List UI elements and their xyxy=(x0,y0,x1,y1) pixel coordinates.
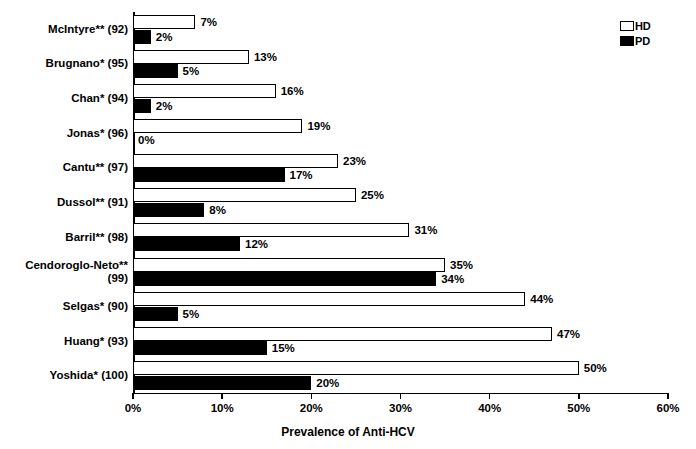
bar-value-label: 23% xyxy=(343,154,366,168)
bar-value-label: 12% xyxy=(245,237,268,251)
x-axis-tick xyxy=(400,393,401,399)
bar-pd xyxy=(133,376,311,390)
bar-hd xyxy=(133,292,525,306)
bar-pd xyxy=(133,237,240,251)
bar-value-label: 2% xyxy=(156,99,173,113)
bar-value-label: 0% xyxy=(138,133,155,147)
bar-hd xyxy=(133,327,552,341)
bar-pd xyxy=(133,307,178,321)
bar-hd xyxy=(133,188,356,202)
category-label: Chan* (94) xyxy=(2,92,128,105)
category-label: Brugnano* (95) xyxy=(2,57,128,70)
x-axis-tick-label: 40% xyxy=(478,402,501,414)
bar-value-label: 47% xyxy=(557,327,580,341)
x-axis-tick-label: 50% xyxy=(567,402,590,414)
category-label: Barril** (98) xyxy=(2,231,128,244)
category-label: Cantu** (97) xyxy=(2,161,128,174)
bar-hd xyxy=(133,50,249,64)
bar-hd xyxy=(133,84,276,98)
bar-pd xyxy=(133,64,178,78)
bar-value-label: 25% xyxy=(361,188,384,202)
bar-pd xyxy=(133,203,204,217)
x-axis-tick xyxy=(311,393,312,399)
bar-value-label: 17% xyxy=(290,168,313,182)
bar-pd xyxy=(133,341,267,355)
bar-hd xyxy=(133,223,409,237)
x-axis-tick-label: 0% xyxy=(125,402,142,414)
bar-value-label: 2% xyxy=(156,30,173,44)
category-label: Jonas* (96) xyxy=(2,127,128,140)
bar-hd xyxy=(133,154,338,168)
bar-value-label: 7% xyxy=(200,15,217,29)
category-label: Selgas* (90) xyxy=(2,300,128,313)
bar-value-label: 34% xyxy=(441,272,464,286)
bar-value-label: 31% xyxy=(414,223,437,237)
bar-hd xyxy=(133,119,302,133)
category-label: Yoshida* (100) xyxy=(2,369,128,382)
category-label: Cendoroglo-Neto** (99) xyxy=(2,259,128,285)
plot-area: 0%10%20%30%40%50%60%7%2%13%5%16%2%19%0%2… xyxy=(133,12,668,393)
bar-pd xyxy=(133,272,436,286)
bar-value-label: 5% xyxy=(183,307,200,321)
x-axis-tick-label: 10% xyxy=(211,402,234,414)
x-axis-tick-label: 30% xyxy=(389,402,412,414)
bar-value-label: 50% xyxy=(584,361,607,375)
bar-pd xyxy=(133,99,151,113)
x-axis-title: Prevalence of Anti-HCV xyxy=(0,425,696,439)
x-axis-tick xyxy=(667,393,668,399)
bar-hd xyxy=(133,15,195,29)
bar-value-label: 35% xyxy=(450,258,473,272)
bar-value-label: 20% xyxy=(316,376,339,390)
category-label: Huang* (93) xyxy=(2,335,128,348)
category-label: McIntyre** (92) xyxy=(2,23,128,36)
bar-value-label: 5% xyxy=(183,64,200,78)
bar-value-label: 44% xyxy=(530,292,553,306)
x-axis-tick xyxy=(578,393,579,399)
x-axis-tick xyxy=(489,393,490,399)
x-axis-tick xyxy=(221,393,222,399)
bar-hd xyxy=(133,361,579,375)
bar-pd xyxy=(133,168,285,182)
bar-value-label: 19% xyxy=(307,119,330,133)
x-axis-tick-label: 20% xyxy=(300,402,323,414)
x-axis-tick xyxy=(132,393,133,399)
x-axis-tick-label: 60% xyxy=(656,402,679,414)
category-axis-labels: McIntyre** (92)Brugnano* (95)Chan* (94)J… xyxy=(0,12,128,393)
bar-hd xyxy=(133,258,445,272)
bar-value-label: 8% xyxy=(209,203,226,217)
bar-value-label: 16% xyxy=(281,84,304,98)
category-label: Dussol** (91) xyxy=(2,196,128,209)
bar-chart: HD PD McIntyre** (92)Brugnano* (95)Chan*… xyxy=(0,0,696,449)
bar-value-label: 13% xyxy=(254,50,277,64)
bar-pd xyxy=(133,30,151,44)
bar-value-label: 15% xyxy=(272,341,295,355)
